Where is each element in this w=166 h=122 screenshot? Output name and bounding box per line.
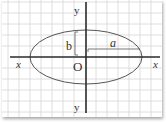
y-axis-label-top: y [74, 5, 80, 16]
semi-major-label: a [110, 37, 116, 49]
semi-minor-label: b [66, 40, 72, 52]
grid-lines [2, 0, 162, 117]
semi-minor-marker [75, 32, 78, 55]
y-axis-label-bottom: y [74, 102, 80, 113]
x-axis-label-left: x [16, 59, 21, 70]
ellipse-diagram [0, 0, 166, 122]
x-axis-label-right: x [153, 59, 158, 70]
origin-label: O [73, 60, 82, 73]
